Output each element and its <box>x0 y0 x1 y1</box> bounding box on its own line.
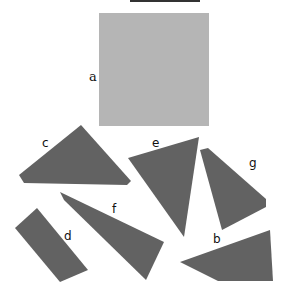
shape-d <box>15 208 88 282</box>
tangram-diagram: a c e g d f b <box>0 0 306 288</box>
shape-c <box>19 125 131 185</box>
label-a: a <box>89 69 97 84</box>
label-f: f <box>112 202 117 216</box>
title-strip-cut <box>130 0 200 2</box>
label-g: g <box>249 156 257 170</box>
shape-a-square <box>99 13 209 126</box>
shape-e <box>128 137 199 237</box>
label-e: e <box>152 136 159 150</box>
label-b: b <box>213 232 221 246</box>
label-d: d <box>64 229 72 243</box>
shape-b <box>180 230 273 281</box>
label-c: c <box>42 136 49 150</box>
